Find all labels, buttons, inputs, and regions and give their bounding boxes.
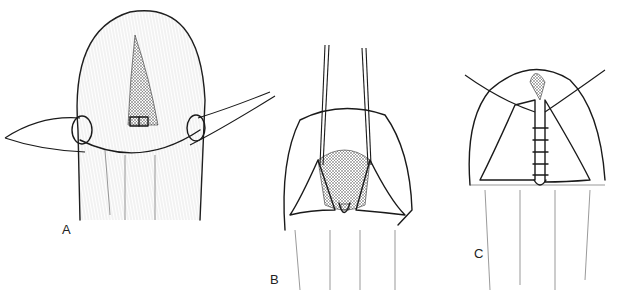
panel-c-drawing [465,70,605,290]
panel-label-c: C [474,246,483,261]
illustration-canvas [0,0,621,293]
panel-a-drawing [5,11,275,220]
panel-label-a: A [62,222,71,237]
panel-b-drawing [284,45,412,290]
panel-label-b: B [270,272,279,287]
